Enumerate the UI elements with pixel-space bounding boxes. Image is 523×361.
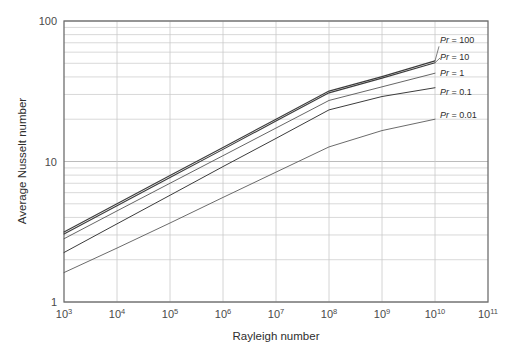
series-label-4: Pr = 0.01 <box>440 110 477 120</box>
series-label-2: Pr = 1 <box>440 68 464 78</box>
log-log-chart: 10310410510610710810910101011 110100 Ray… <box>0 0 523 361</box>
x-axis-title: Rayleigh number <box>233 330 320 342</box>
series-label-1: Pr = 10 <box>440 52 469 62</box>
y-axis-title: Average Nusselt number <box>16 98 28 225</box>
y-tick-label: 100 <box>39 15 57 27</box>
y-tick-label: 10 <box>45 156 57 168</box>
figure-rayleigh-nusselt: 10310410510610710810910101011 110100 Ray… <box>0 0 523 361</box>
series-label-0: Pr = 100 <box>440 35 474 45</box>
y-tick-label: 1 <box>51 296 57 308</box>
series-label-3: Pr = 0.1 <box>440 87 472 97</box>
